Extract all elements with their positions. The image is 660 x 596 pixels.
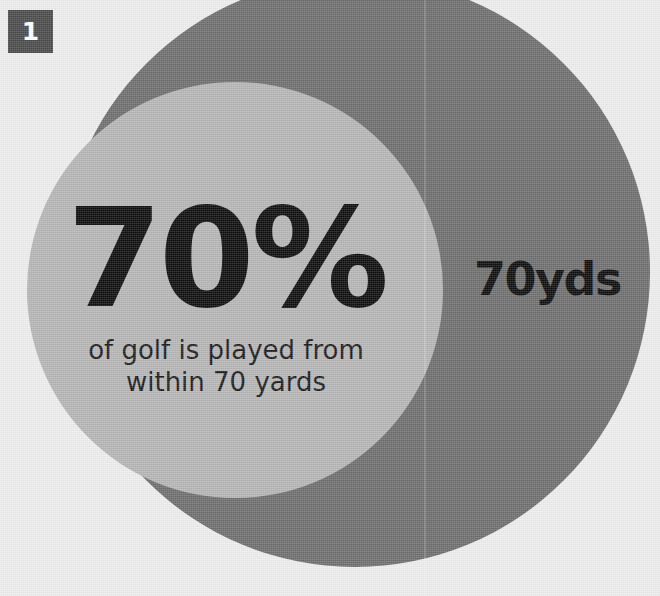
stat-block: 70% of golf is played from within 70 yar… [16, 196, 436, 398]
stat-caption-line-1: of golf is played from [16, 335, 436, 367]
index-badge: 1 [8, 10, 53, 53]
ring-distance-label: 70yds [474, 256, 621, 302]
stat-caption: of golf is played from within 70 yards [16, 335, 436, 398]
stat-caption-line-2: within 70 yards [16, 367, 436, 399]
index-badge-number: 1 [22, 19, 39, 44]
infographic-canvas: 1 70% of golf is played from within 70 y… [0, 0, 660, 596]
stat-percentage-value: 70% [16, 196, 436, 323]
